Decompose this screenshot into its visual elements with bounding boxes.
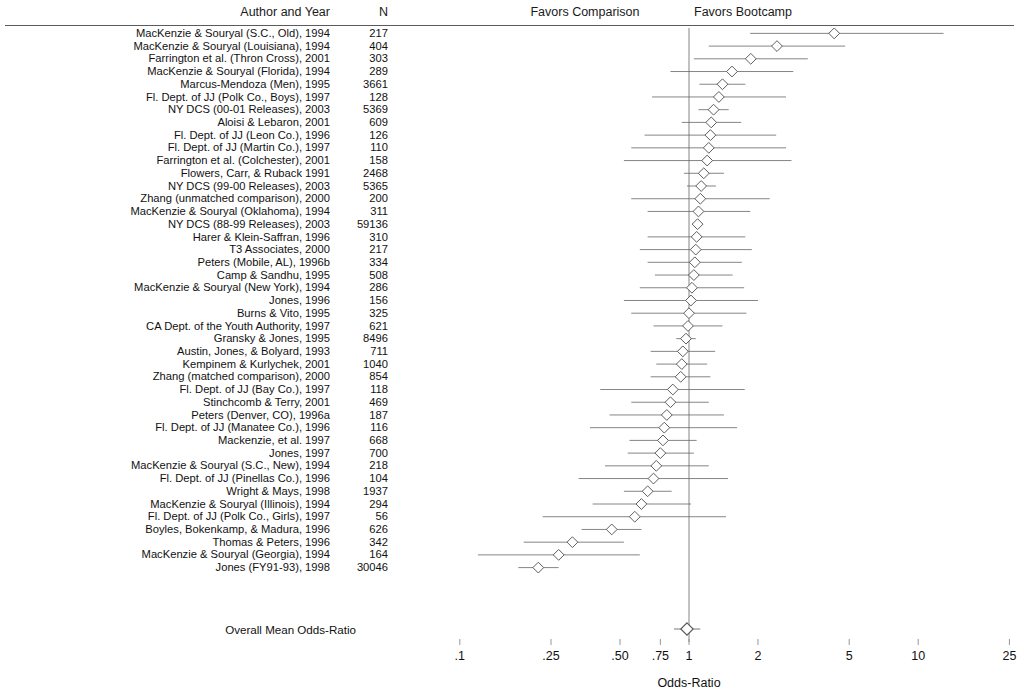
study-label: T3 Associates, 2000 [0,243,330,256]
odds-ratio-diamond [686,295,697,306]
forest-row-mark [518,562,558,573]
study-label: Farrington et al. (Colchester), 2001 [0,154,330,167]
study-label: Fl. Dept. of JJ (Pinellas Co.), 1996 [0,472,330,485]
study-row: Jones, 1996156 [0,294,392,307]
odds-ratio-diamond [692,219,703,230]
forest-row-mark [629,435,696,446]
forest-row-mark [624,486,672,497]
study-label: Zhang (unmatched comparison), 2000 [0,192,330,205]
forest-row-mark [590,422,737,433]
forest-row-mark [645,130,777,141]
forest-row-mark [628,448,694,459]
study-label-list: MacKenzie & Souryal (S.C., Old), 1994217… [0,27,392,574]
study-row: MacKenzie & Souryal (S.C., Old), 1994217 [0,27,392,40]
study-sample-size: 118 [332,383,388,396]
study-sample-size: 116 [332,421,388,434]
study-sample-size: 187 [332,409,388,422]
x-axis-tick-label: .25 [542,649,559,663]
study-sample-size: 289 [332,65,388,78]
odds-ratio-diamond [553,549,564,560]
study-label: Jones (FY91-93), 1998 [0,561,330,574]
study-label: Wright & Mays, 1998 [0,485,330,498]
study-label: Marcus-Mendoza (Men), 1995 [0,78,330,91]
forest-row-mark [694,53,808,64]
odds-ratio-diamond [690,244,701,255]
study-sample-size: 8496 [332,332,388,345]
study-row: Fl. Dept. of JJ (Polk Co., Girls), 19975… [0,510,392,523]
study-row: Camp & Sandhu, 1995508 [0,269,392,282]
odds-ratio-diamond [695,193,706,204]
study-row: MacKenzie & Souryal (Oklahoma), 1994311 [0,205,392,218]
study-sample-size: 286 [332,281,388,294]
study-label: Flowers, Carr, & Ruback 1991 [0,167,330,180]
study-row: T3 Associates, 2000217 [0,243,392,256]
odds-ratio-diamond [727,66,738,77]
study-label: Fl. Dept. of JJ (Martin Co.), 1997 [0,141,330,154]
study-row: Fl. Dept. of JJ (Polk Co., Boys), 199712… [0,91,392,104]
forest-row-mark [648,231,746,242]
odds-ratio-diamond [703,142,714,153]
study-row: MacKenzie & Souryal (Illinois), 1994294 [0,498,392,511]
study-label: Zhang (matched comparison), 2000 [0,370,330,383]
forest-row-mark [600,384,744,395]
study-row: Stinchcomb & Terry, 2001469 [0,396,392,409]
forest-row-mark [605,460,709,471]
study-sample-size: 217 [332,27,388,40]
odds-ratio-diamond [567,537,578,548]
study-row: Fl. Dept. of JJ (Manatee Co.), 1996116 [0,421,392,434]
forest-row-mark [631,193,769,204]
study-row: Marcus-Mendoza (Men), 19953661 [0,78,392,91]
study-sample-size: 200 [332,192,388,205]
study-row: Farrington et al. (Thron Cross), 2001303 [0,52,392,65]
study-sample-size: 700 [332,447,388,460]
study-sample-size: 325 [332,307,388,320]
forest-row-mark [687,181,716,192]
forest-row-mark [593,499,691,510]
forest-row-mark [524,537,624,548]
study-sample-size: 5365 [332,180,388,193]
study-sample-size: 128 [332,91,388,104]
study-sample-size: 626 [332,523,388,536]
study-label: NY DCS (99-00 Releases), 2003 [0,180,330,193]
study-label: Jones, 1996 [0,294,330,307]
overall-mean-diamond [681,623,693,635]
study-sample-size: 404 [332,40,388,53]
x-axis-tick-label: .75 [652,649,669,663]
study-label: Austin, Jones, & Bolyard, 1993 [0,345,330,358]
study-sample-size: 158 [332,154,388,167]
odds-ratio-diamond [659,422,670,433]
study-sample-size: 3661 [332,78,388,91]
study-sample-size: 104 [332,472,388,485]
forest-row-mark [582,524,642,535]
study-row: Mackenzie, et al. 1997668 [0,434,392,447]
forest-row-mark [640,244,752,255]
annotation-favors-comparison: Favors Comparison [505,5,665,19]
study-label: NY DCS (00-01 Releases), 2003 [0,103,330,116]
study-label: Mackenzie, et al. 1997 [0,434,330,447]
overall-mean-label: Overall Mean Odds-Ratio [0,623,356,636]
study-row: Peters (Mobile, AL), 1996b334 [0,256,392,269]
x-axis-tick-label: 25 [1002,649,1016,663]
odds-ratio-diamond [702,155,713,166]
column-header-n: N [332,5,388,19]
odds-ratio-diamond [661,410,672,421]
study-row: Zhang (unmatched comparison), 2000200 [0,192,392,205]
study-label: Fl. Dept. of JJ (Polk Co., Girls), 1997 [0,510,330,523]
forest-row-mark [631,308,746,319]
forest-row-mark [631,142,786,153]
odds-ratio-diamond [745,53,756,64]
study-row: Kempinem & Kurlychek, 20011040 [0,358,392,371]
study-row: Burns & Vito, 1995325 [0,307,392,320]
x-axis-tick-label: .1 [455,649,465,663]
odds-ratio-diamond [684,308,695,319]
study-sample-size: 2468 [332,167,388,180]
study-row: Fl. Dept. of JJ (Leon Co.), 1996126 [0,129,392,142]
study-sample-size: 311 [332,205,388,218]
study-sample-size: 218 [332,459,388,472]
study-label: Jones, 1997 [0,447,330,460]
study-label: Fl. Dept. of JJ (Leon Co.), 1996 [0,129,330,142]
study-label: Fl. Dept. of JJ (Polk Co., Boys), 1997 [0,91,330,104]
x-axis-tick-label: 2 [755,649,762,663]
study-sample-size: 334 [332,256,388,269]
forest-row-mark [699,79,745,90]
